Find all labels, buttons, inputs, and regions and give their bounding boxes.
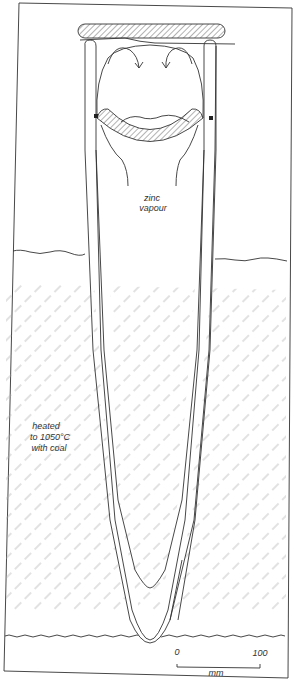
dish-clip-right [209, 116, 213, 120]
dish-clip-left [94, 114, 98, 118]
label-zinc: zinc [143, 193, 161, 203]
coal-top-edge-right [215, 258, 287, 261]
scale-unit: mm [209, 668, 224, 678]
label-with-coal: with coal [31, 443, 67, 453]
coal-top-edge [13, 250, 85, 255]
scale-zero: 0 [174, 647, 179, 657]
label-vapour: vapour [139, 203, 168, 213]
lid-seal-line [80, 38, 235, 44]
label-temperature: to 1050°C [30, 432, 71, 442]
condenser-dish [97, 109, 203, 142]
flow-arrow-right [166, 48, 192, 68]
diagram-canvas: zinc vapour heated to 1050°C with coal 0… [0, 0, 294, 683]
scale-hundred: 100 [252, 648, 267, 658]
condenser-cavity [97, 45, 204, 118]
retort-lid [78, 24, 225, 38]
label-heated: heated [32, 421, 61, 431]
flow-arrow-left [108, 48, 139, 68]
